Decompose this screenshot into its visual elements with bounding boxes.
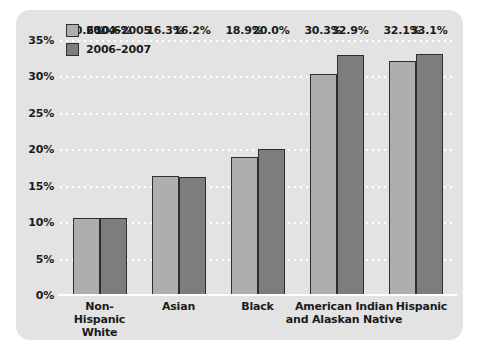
x-tick-line: Hispanic [382,300,461,313]
bar-group: 18.9% 20.0% [218,40,297,295]
x-tick-label-non-hispanic-white: Non-Hispanic White [60,300,139,339]
y-tick-label: 5% [8,252,54,265]
bar-group: 30.3% 32.9% [297,40,376,295]
bar-pair: 20.0% [258,40,285,295]
bar-value-label: 20.0% [252,24,289,37]
legend-swatch-icon [66,43,79,56]
y-tick-label: 35% [8,34,54,47]
bar-series1 [389,61,416,295]
bar-series2 [337,55,364,295]
bar-series1 [152,176,179,295]
bar-pair: 33.1% [416,40,443,295]
bar-chart: 35% 30% 25% 20% 15% 10% 5% 0% 10.6% 10.6… [0,0,483,352]
bar-pair: 16.3% [152,40,179,295]
legend-label: 2006–2007 [86,43,151,56]
legend-label: 2004–2005 [86,24,151,37]
y-tick-label: 10% [8,216,54,229]
bar-series1 [310,74,337,295]
bar-series2 [100,218,127,295]
bar-pair: 32.1% [389,40,416,295]
bar-pair: 18.9% [231,40,258,295]
bar-series2 [179,177,206,295]
legend-item-2004-2005: 2004–2005 [66,22,151,39]
bar-series1 [73,218,100,295]
x-tick-line: and Alaskan Native [285,313,403,326]
bar-group: 10.6% 10.6% [60,40,139,295]
legend-swatch-icon [66,24,79,37]
bar-series1 [231,157,258,295]
y-tick-label: 0% [8,289,54,302]
bar-group: 16.3% 16.2% [139,40,218,295]
x-tick-line: Non-Hispanic [60,300,139,326]
bar-pair: 10.6% [73,40,100,295]
bar-pair: 32.9% [337,40,364,295]
x-tick-label-hispanic: Hispanic [382,300,461,313]
y-tick-label: 30% [8,70,54,83]
plot-area: 10.6% 10.6% 16.3% 16.2% [60,40,455,295]
x-tick-label-asian: Asian [139,300,218,313]
y-tick-label: 20% [8,143,54,156]
bar-pair: 30.3% [310,40,337,295]
bar-group: 32.1% 33.1% [376,40,455,295]
x-tick-line: White [60,326,139,339]
legend: 2004–2005 2006–2007 [66,22,151,60]
y-tick-label: 25% [8,106,54,119]
bar-pair: 10.6% [100,40,127,295]
bar-value-label: 33.1% [410,24,447,37]
y-tick-label: 15% [8,179,54,192]
bar-value-label: 16.2% [173,24,210,37]
y-axis: 35% 30% 25% 20% 15% 10% 5% 0% [8,40,54,295]
bar-pair: 16.2% [179,40,206,295]
x-axis-line [58,294,457,296]
bar-series2 [258,149,285,295]
bar-value-label: 32.9% [331,24,368,37]
bar-series2 [416,54,443,295]
legend-item-2006-2007: 2006–2007 [66,41,151,58]
x-tick-line: Asian [139,300,218,313]
